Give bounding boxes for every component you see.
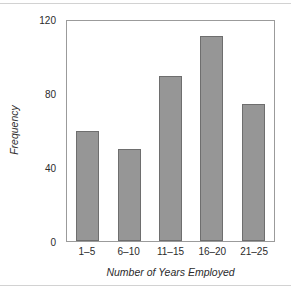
y-tick-label-80: 80 [16,90,56,100]
bar-series [67,21,274,241]
y-tick-label-0: 0 [16,238,56,248]
plot-area [66,20,275,242]
y-axis-title: Frequency [8,80,20,180]
bottom-divider-rule [0,285,291,286]
x-tick-labels: 1–5 6–10 11–15 16–20 21–25 [66,247,275,257]
x-tick-label-1-5: 1–5 [66,247,108,257]
bar-16-20 [200,36,223,241]
bar-21-25 [242,104,265,242]
top-divider-rule [0,3,291,4]
x-tick-label-11-15: 11–15 [150,247,192,257]
bar-1-5 [76,131,99,241]
y-tick-label-120: 120 [16,16,56,26]
x-tick-label-21-25: 21–25 [233,247,275,257]
x-axis-title: Number of Years Employed [66,266,275,278]
x-tick-label-6-10: 6–10 [108,247,150,257]
bar-11-15 [159,76,182,241]
y-tick-label-40: 40 [16,164,56,174]
x-tick-label-16-20: 16–20 [191,247,233,257]
bar-chart-figure: 120 80 40 0 Frequency 1–5 6–10 11–15 16–… [0,0,291,293]
bar-6-10 [118,149,141,241]
